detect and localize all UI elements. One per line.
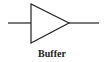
buffer-triangle xyxy=(31,4,69,43)
gate-label: Buffer xyxy=(0,48,104,60)
